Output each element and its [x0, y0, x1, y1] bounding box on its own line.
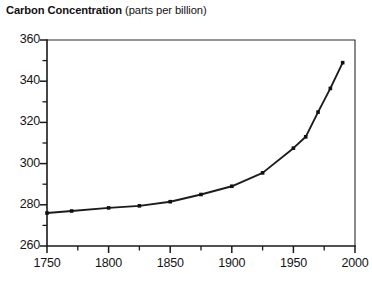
axis-ticks — [40, 40, 355, 253]
x-tick-label-1900: 1900 — [209, 256, 255, 270]
y-tick-label-300: 300 — [2, 156, 40, 170]
data-point-markers — [45, 61, 344, 215]
y-tick-label-320: 320 — [2, 114, 40, 128]
y-tick-label-360: 360 — [2, 32, 40, 46]
x-tick-label-2000: 2000 — [332, 256, 372, 270]
y-tick-label-280: 280 — [2, 197, 40, 211]
plot-area — [0, 0, 372, 283]
x-tick-label-1750: 1750 — [24, 256, 70, 270]
x-tick-label-1800: 1800 — [86, 256, 132, 270]
y-tick-label-340: 340 — [2, 73, 40, 87]
y-tick-label-260: 260 — [2, 238, 40, 252]
carbon-concentration-chart: Carbon Concentration (parts per billion)… — [0, 0, 372, 283]
axes-frame — [47, 40, 355, 246]
x-tick-label-1850: 1850 — [147, 256, 193, 270]
x-tick-label-1950: 1950 — [270, 256, 316, 270]
data-series-line — [47, 63, 343, 213]
